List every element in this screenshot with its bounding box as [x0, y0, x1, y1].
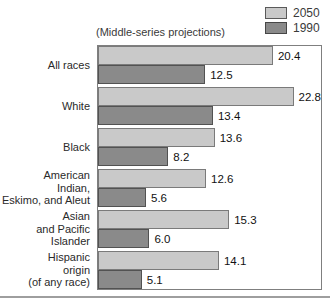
bottom-rule	[0, 296, 330, 298]
bar-value-label: 5.6	[151, 192, 167, 204]
bar-row-1990: 5.6	[98, 188, 321, 207]
legend: 2050 1990	[265, 6, 320, 36]
bar-1990-hispanic	[98, 270, 142, 289]
bar-1990-black	[98, 147, 168, 166]
bar-value-label: 13.6	[220, 132, 242, 144]
bar-value-label: 15.3	[234, 214, 256, 226]
bar-group-all-races: 20.412.5	[98, 46, 321, 84]
bar-value-label: 14.1	[224, 255, 246, 267]
chart-subtitle: (Middle-series projections)	[96, 26, 225, 38]
bar-group-black: 13.68.2	[98, 128, 321, 166]
bar-row-1990: 5.1	[98, 270, 321, 289]
bar-2050-asian	[98, 210, 229, 229]
legend-item-1990: 1990	[265, 21, 320, 34]
bar-chart: 2050 1990 (Middle-series projections) Al…	[0, 0, 330, 300]
bar-2050-all-races	[98, 46, 273, 65]
bar-group-american: 12.65.6	[98, 169, 321, 207]
bar-1990-asian	[98, 229, 149, 248]
bar-group-asian: 15.36.0	[98, 210, 321, 248]
category-label-asian: Asian and Pacific Islander	[0, 210, 90, 248]
bar-value-label: 22.8	[299, 91, 321, 103]
bar-row-1990: 6.0	[98, 229, 321, 248]
bar-value-label: 6.0	[154, 233, 170, 245]
bar-value-label: 20.4	[278, 50, 300, 62]
bar-2050-black	[98, 128, 215, 147]
legend-swatch-1990	[265, 22, 287, 34]
bar-value-label: 13.4	[218, 110, 240, 122]
bar-row-2050: 12.6	[98, 169, 321, 188]
bar-2050-american	[98, 169, 206, 188]
bar-group-hispanic: 14.15.1	[98, 251, 321, 289]
category-label-white: White	[0, 87, 90, 125]
category-label-hispanic: Hispanic origin (of any race)	[0, 251, 90, 289]
bar-2050-hispanic	[98, 251, 219, 270]
bar-1990-all-races	[98, 65, 205, 84]
bar-row-1990: 8.2	[98, 147, 321, 166]
bar-row-2050: 15.3	[98, 210, 321, 229]
category-labels: All racesWhiteBlackAmerican Indian, Eski…	[0, 46, 90, 292]
bar-row-2050: 22.8	[98, 87, 321, 106]
legend-label-1990: 1990	[293, 22, 320, 34]
bar-row-2050: 20.4	[98, 46, 321, 65]
category-label-black: Black	[0, 128, 90, 166]
bar-row-1990: 13.4	[98, 106, 321, 125]
category-label-american: American Indian, Eskimo, and Aleut	[0, 169, 90, 207]
legend-swatch-2050	[265, 7, 287, 19]
bar-value-label: 12.6	[211, 173, 233, 185]
bar-row-2050: 13.6	[98, 128, 321, 147]
bar-row-1990: 12.5	[98, 65, 321, 84]
bar-value-label: 12.5	[210, 69, 232, 81]
legend-item-2050: 2050	[265, 6, 320, 19]
plot-area: 20.412.522.813.413.68.212.65.615.36.014.…	[97, 45, 322, 290]
bar-value-label: 8.2	[173, 151, 189, 163]
bar-value-label: 5.1	[147, 274, 163, 286]
legend-label-2050: 2050	[293, 7, 320, 19]
bar-row-2050: 14.1	[98, 251, 321, 270]
bar-2050-white	[98, 87, 294, 106]
bar-1990-american	[98, 188, 146, 207]
category-label-all-races: All races	[0, 46, 90, 84]
bar-1990-white	[98, 106, 213, 125]
bar-group-white: 22.813.4	[98, 87, 321, 125]
